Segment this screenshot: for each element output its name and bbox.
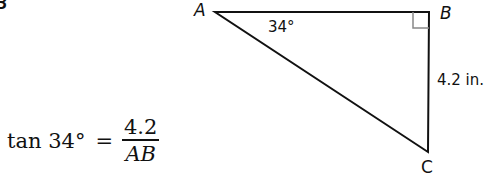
vertex-label-a: A: [194, 2, 206, 19]
angle-a-label: 34°: [268, 20, 295, 35]
triangle-abc: [215, 12, 429, 152]
vertex-label-b: B: [440, 5, 452, 22]
right-angle-mark: [413, 12, 429, 28]
tangent-equation: tan 34° = 4.2 AB: [7, 117, 159, 165]
equation-lhs: tan 34°: [7, 129, 85, 153]
side-bc-length-label: 4.2 in.: [437, 73, 484, 88]
equals-sign: =: [95, 129, 113, 153]
fraction: 4.2 AB: [122, 117, 159, 165]
vertex-label-c: C: [421, 159, 433, 176]
fraction-denominator: AB: [125, 141, 156, 165]
fraction-numerator: 4.2: [122, 117, 159, 139]
